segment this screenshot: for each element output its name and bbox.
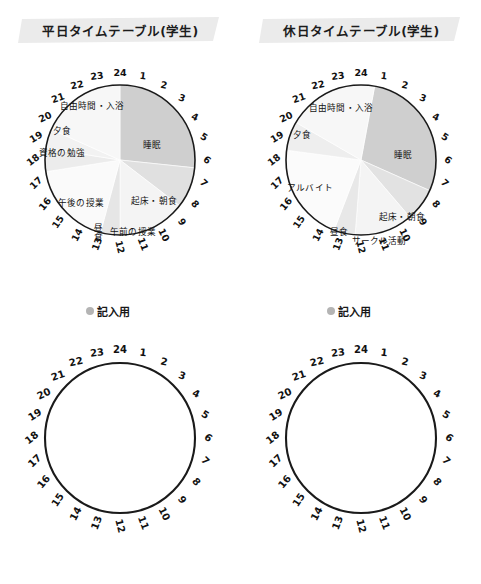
pie-slice-睡眠 <box>120 85 195 168</box>
blank-pie-outline[interactable] <box>286 363 436 513</box>
blank-pie-outline[interactable] <box>45 363 195 513</box>
weekday-pie-svg <box>20 60 220 260</box>
holiday-pie-svg <box>261 60 461 260</box>
filled-circle-icon <box>327 307 335 315</box>
weekday-fill-in-legend: 記入用 <box>86 303 130 319</box>
weekday-title-text: 平日タイムテーブル(学生) <box>18 17 223 43</box>
holiday-blank-svg[interactable] <box>261 338 461 538</box>
weekday-column: 平日タイムテーブル(学生) 12345678910111213141516171… <box>0 0 240 584</box>
filled-circle-icon <box>86 307 94 315</box>
weekday-blank-svg[interactable] <box>20 338 220 538</box>
weekday-blank-chart[interactable]: 123456789101112131415161718192021222324 <box>20 338 220 538</box>
holiday-title-text: 休日タイムテーブル(学生) <box>259 17 464 43</box>
weekday-title-banner: 平日タイムテーブル(学生) <box>18 17 223 43</box>
weekday-pie-chart: 123456789101112131415161718192021222324 … <box>20 60 220 260</box>
holiday-title-banner: 休日タイムテーブル(学生) <box>259 17 464 43</box>
weekday-fill-in-label: 記入用 <box>97 303 130 319</box>
timetable-worksheet: 平日タイムテーブル(学生) 12345678910111213141516171… <box>0 0 481 584</box>
holiday-column: 休日タイムテーブル(学生) 12345678910111213141516171… <box>241 0 481 584</box>
holiday-pie-chart: 123456789101112131415161718192021222324 … <box>261 60 461 260</box>
holiday-blank-chart[interactable]: 123456789101112131415161718192021222324 <box>261 338 461 538</box>
holiday-fill-in-label: 記入用 <box>338 303 371 319</box>
holiday-fill-in-legend: 記入用 <box>327 303 371 319</box>
